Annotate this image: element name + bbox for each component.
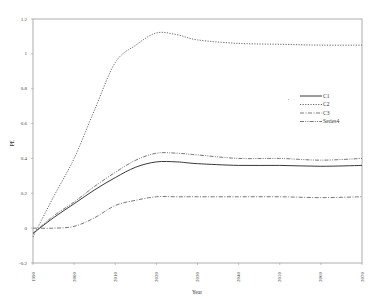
legend-label: C3 [323,110,330,116]
stray-mark [288,99,289,100]
x-tick-label: 2070 [360,272,365,283]
y-tick-label: 1.2 [21,17,28,22]
y-tick-label: 0.8 [21,86,28,91]
x-tick-label: 2040 [236,272,241,283]
y-tick-label: 0.4 [21,156,28,161]
x-tick-label: 2010 [113,272,118,283]
x-tick-label: 2030 [195,272,200,283]
y-axis-ticks: 1.210.80.60.40.20-0.2 [19,17,33,266]
plot-area [33,19,362,263]
legend-label: C2 [323,101,330,107]
x-axis-ticks: 199020002010202020302040205020602070 [31,263,365,282]
y-tick-label: 0.2 [21,191,28,196]
x-axis-label: Year [192,289,202,295]
x-tick-label: 2020 [154,272,159,283]
y-axis-label: PE [9,139,15,146]
x-tick-label: 2060 [318,272,323,283]
legend-label: C1 [323,93,330,99]
line-chart: 1.210.80.60.40.20-0.2 199020002010202020… [0,0,378,299]
y-tick-label: -0.2 [19,261,27,266]
y-tick-label: 0 [25,226,28,231]
x-tick-label: 2000 [72,272,77,283]
x-tick-label: 1990 [31,272,36,283]
y-tick-label: 1 [25,51,28,56]
y-tick-label: 0.6 [21,121,28,126]
legend-label: Series4 [323,118,339,124]
x-tick-label: 2050 [277,272,282,283]
